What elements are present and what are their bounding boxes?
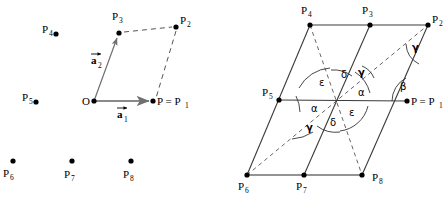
point-dot-P8 <box>359 172 364 177</box>
label-P3: P <box>112 10 118 22</box>
vector-label-a1-overbar-head <box>124 106 128 110</box>
point-dot-P4 <box>53 31 58 36</box>
label-P8-sub: 8 <box>130 174 134 183</box>
label-P4-sub: 4 <box>49 29 53 38</box>
label-P4: P <box>42 23 48 35</box>
angle-label-delta-upper: δ <box>341 69 347 80</box>
vector-label-a1: a <box>117 108 123 120</box>
label-P4-sub: 4 <box>308 10 312 19</box>
label-P5: P <box>22 91 28 103</box>
point-dot-P3 <box>116 30 121 35</box>
label-P6: P <box>3 167 9 179</box>
point-dot-P8 <box>128 158 133 163</box>
angle-label-gamma-lower-left: γ <box>306 122 313 133</box>
label-P5-sub: 5 <box>269 92 273 101</box>
point-dot-P7 <box>301 172 306 177</box>
label-P8-sub: 8 <box>379 177 383 186</box>
angle-label-gamma-upper-right: γ <box>358 67 365 78</box>
point-dot-P6 <box>244 172 249 177</box>
point-dot-P2 <box>173 24 178 29</box>
label-P1-sub: 1 <box>185 101 189 110</box>
label-P1-sub: 1 <box>439 101 443 110</box>
label-P8: P <box>123 168 129 180</box>
vector-label-a2: a <box>91 54 97 66</box>
point-dot-P3 <box>367 22 372 27</box>
point-dot-P4 <box>307 22 312 27</box>
edge-P2-P1 <box>156 31 176 98</box>
label-P2: P <box>180 14 186 26</box>
label-P8: P <box>372 171 378 183</box>
arc-center-alpha-left <box>296 96 300 112</box>
label-P6-sub: 6 <box>10 173 14 182</box>
label-P3-sub: 3 <box>369 10 373 19</box>
angle-label-epsilon-lower-right: ε <box>349 107 354 118</box>
label-P2-sub: 2 <box>439 19 443 28</box>
left-point-labels: O P = P 1 P 2 P 3 P 4 P 5 P 6 P 7 P 8 <box>3 10 191 183</box>
label-P7: P <box>64 168 70 180</box>
label-O: O <box>82 95 90 107</box>
angle-label-beta-at-P1: β <box>400 81 406 92</box>
lattice-diagram-svg: O P = P 1 P 2 P 3 P 4 P 5 P 6 P 7 P 8 <box>0 0 446 202</box>
label-P7: P <box>296 180 302 192</box>
label-P1: P = P <box>157 95 181 107</box>
point-dot-P5 <box>33 99 38 104</box>
point-dot-P2 <box>425 22 430 27</box>
angle-label-gamma-at-P2: γ <box>412 42 419 53</box>
edge-P3-P2 <box>124 27 172 32</box>
vector-label-a1-sub: 1 <box>124 115 128 124</box>
label-P5: P <box>262 86 268 98</box>
arc-center-delta-lower <box>317 126 340 132</box>
point-dot-P6 <box>10 158 15 163</box>
left-panel: O P = P 1 P 2 P 3 P 4 P 5 P 6 P 7 P 8 <box>3 10 191 183</box>
vector-label-a2-overbar-head <box>98 52 102 56</box>
label-P2-sub: 2 <box>187 20 191 29</box>
left-lattice-points <box>10 24 178 163</box>
figure-root: O P = P 1 P 2 P 3 P 4 P 5 P 6 P 7 P 8 <box>0 0 446 202</box>
label-P7-sub: 7 <box>71 174 75 183</box>
left-basis-vectors <box>94 38 149 101</box>
right-point-labels: P = P 1 P 2 P 3 P 4 P 5 P 6 P 7 P 8 <box>238 4 443 195</box>
label-P2: P <box>432 13 438 25</box>
angle-label-alpha-right: α <box>358 87 365 98</box>
angle-label-epsilon-upper-left: ε <box>319 77 324 88</box>
point-dot-P7 <box>69 158 74 163</box>
label-P3: P <box>362 4 368 16</box>
right-angle-labels: δ γ ε α α ε δ γ β γ <box>306 42 419 133</box>
right-panel: δ γ ε α α ε δ γ β γ P = P 1 P 2 P 3 P 4 <box>238 4 443 195</box>
point-dot-P1 <box>150 98 155 103</box>
caption-strip <box>0 194 446 202</box>
label-P1: P = P <box>411 95 435 107</box>
vector-label-a2-sub: 2 <box>98 61 102 70</box>
point-dot-P1 <box>404 98 409 103</box>
left-vector-labels: a 2 a 1 <box>91 52 128 124</box>
point-dot-O <box>91 98 96 103</box>
arc-center-eps-upper <box>299 68 330 88</box>
label-P6: P <box>238 180 244 192</box>
label-P5-sub: 5 <box>29 97 33 106</box>
angle-label-delta-lower: δ <box>330 117 336 128</box>
point-dot-P5 <box>276 97 281 102</box>
left-dashed-edges <box>124 27 176 98</box>
label-P4: P <box>301 4 307 16</box>
label-P3-sub: 3 <box>119 16 123 25</box>
angle-label-alpha-left: α <box>311 103 318 114</box>
